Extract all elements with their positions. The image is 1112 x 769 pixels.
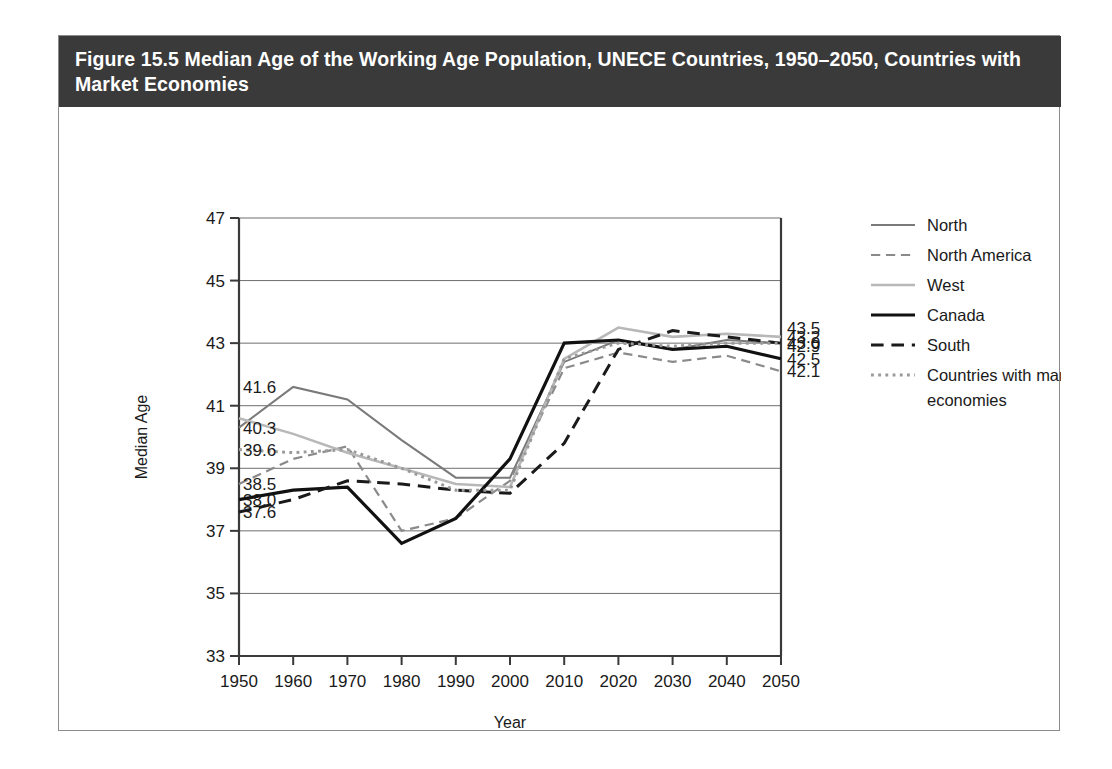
left-value-label: 39.6 bbox=[243, 441, 276, 460]
y-tick-label: 37 bbox=[206, 522, 225, 541]
x-tick-label: 2050 bbox=[762, 672, 800, 691]
series-line-canada bbox=[239, 340, 781, 543]
legend-label-west[interactable]: West bbox=[927, 276, 965, 294]
y-tick-label: 45 bbox=[206, 272, 225, 291]
y-tick-label: 33 bbox=[206, 647, 225, 666]
y-tick-label: 35 bbox=[206, 584, 225, 603]
y-tick-label: 43 bbox=[206, 334, 225, 353]
x-tick-label: 2020 bbox=[599, 672, 637, 691]
x-tick-label: 2040 bbox=[708, 672, 746, 691]
series-line-west bbox=[239, 328, 781, 488]
legend-label-north-america[interactable]: North America bbox=[927, 246, 1032, 264]
left-value-label: 41.6 bbox=[243, 378, 276, 397]
figure-title: Figure 15.5 Median Age of the Working Ag… bbox=[75, 47, 1045, 97]
y-tick-label: 39 bbox=[206, 459, 225, 478]
legend-label-countries-with-market-economies-cont[interactable]: economies bbox=[927, 391, 1007, 409]
chart-area: 3335373941434547195019601970198019902000… bbox=[59, 107, 1061, 732]
x-tick-label: 1950 bbox=[220, 672, 258, 691]
y-tick-label: 47 bbox=[206, 209, 225, 228]
x-tick-label: 2000 bbox=[491, 672, 529, 691]
legend-label-north[interactable]: North bbox=[927, 216, 967, 234]
y-axis-title: Median Age bbox=[133, 395, 150, 480]
x-tick-label: 2010 bbox=[545, 672, 583, 691]
series-line-north-america bbox=[239, 353, 781, 531]
legend-label-countries-with-market-economies[interactable]: Countries with market bbox=[927, 366, 1061, 384]
legend-label-canada[interactable]: Canada bbox=[927, 306, 986, 324]
figure-container: Figure 15.5 Median Age of the Working Ag… bbox=[58, 35, 1060, 731]
x-tick-label: 1990 bbox=[437, 672, 475, 691]
x-tick-label: 1970 bbox=[328, 672, 366, 691]
x-tick-label: 1980 bbox=[383, 672, 421, 691]
y-tick-label: 41 bbox=[206, 397, 225, 416]
x-tick-label: 2030 bbox=[654, 672, 692, 691]
left-value-label: 40.3 bbox=[243, 419, 276, 438]
x-tick-label: 1960 bbox=[274, 672, 312, 691]
line-chart: 3335373941434547195019601970198019902000… bbox=[59, 107, 1061, 732]
right-value-label: 42.1 bbox=[787, 362, 820, 381]
x-axis-title: Year bbox=[494, 714, 527, 731]
legend-label-south[interactable]: South bbox=[927, 336, 970, 354]
left-value-label: 37.6 bbox=[243, 503, 276, 522]
figure-title-bar: Figure 15.5 Median Age of the Working Ag… bbox=[59, 36, 1061, 107]
